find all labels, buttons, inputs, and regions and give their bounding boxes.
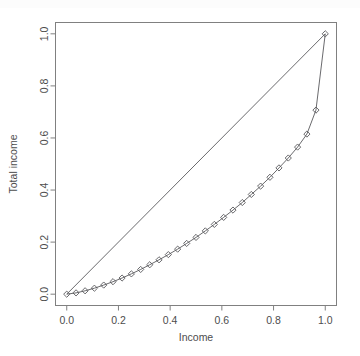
x-tick-label: 0.6 [215, 314, 230, 326]
top-margin-band [0, 0, 360, 8]
x-tick-label: 0.4 [163, 314, 178, 326]
y-axis-title: Total income [7, 134, 19, 193]
y-tick-label: 1.0 [39, 26, 51, 41]
y-tick-label: 0.6 [39, 131, 51, 146]
y-tick-label: 0.8 [39, 78, 51, 93]
x-axis-title: Income [179, 331, 214, 343]
y-tick-label: 0.4 [39, 183, 51, 198]
x-tick-label: 0.0 [59, 314, 74, 326]
y-tick-label: 0.0 [39, 287, 51, 302]
x-tick-label: 1.0 [318, 314, 333, 326]
lorenz-curve-plot: 0.00.20.40.60.81.0 0.00.20.40.60.81.0 In… [0, 0, 360, 356]
x-tick-label: 0.2 [111, 314, 126, 326]
y-tick-label: 0.2 [39, 235, 51, 250]
x-tick-label: 0.8 [266, 314, 281, 326]
chart-canvas: 0.00.20.40.60.81.0 0.00.20.40.60.81.0 In… [0, 0, 360, 356]
